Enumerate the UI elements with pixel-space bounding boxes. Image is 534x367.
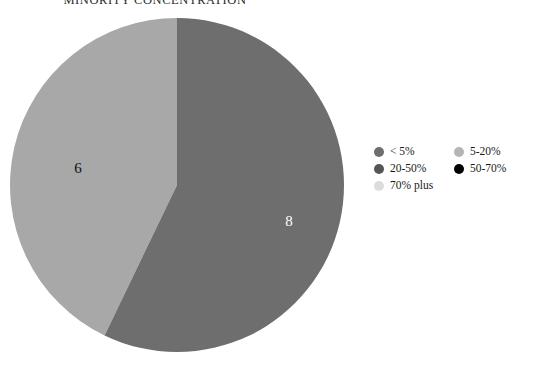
legend-swatch-icon [454, 147, 464, 157]
legend-item-20-50[interactable]: 20-50% [374, 161, 433, 176]
legend-column-right: 5-20% 50-70% [454, 144, 506, 178]
legend-swatch-icon [454, 164, 464, 174]
pie-chart: 6 8 [9, 17, 346, 354]
legend-item-label: 50-70% [470, 163, 506, 175]
legend-item-under-5[interactable]: < 5% [374, 144, 433, 159]
legend-item-50-70[interactable]: 50-70% [454, 161, 506, 176]
legend-swatch-icon [374, 147, 384, 157]
pie-slice-label-6: 6 [74, 160, 82, 176]
legend-item-label: 5-20% [470, 146, 501, 158]
pie-chart-svg: 6 8 [9, 17, 346, 354]
legend-item-5-20[interactable]: 5-20% [454, 144, 506, 159]
legend-swatch-icon [374, 181, 384, 191]
legend-swatch-icon [374, 164, 384, 174]
legend-item-70-plus[interactable]: 70% plus [374, 178, 433, 193]
legend-item-label: < 5% [390, 146, 415, 158]
chart-title: MINORITY CONCENTRATION [0, 0, 310, 8]
legend-column-left: < 5% 20-50% 70% plus [374, 144, 433, 195]
legend-item-label: 20-50% [390, 163, 426, 175]
legend-item-label: 70% plus [390, 180, 433, 192]
pie-slice-label-8: 8 [285, 213, 293, 229]
